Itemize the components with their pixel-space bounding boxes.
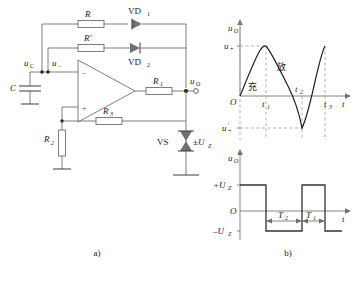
chart2-xlabel: t [342,214,345,224]
label-diode-VD2-sub: 2 [147,62,150,68]
chart2-ytick-label-plusUz: +U [213,180,226,190]
label-resistor-R: R [84,9,91,19]
label-resistor-R1-sub: 1 [160,81,163,87]
diode-VD2-triangle [130,43,140,53]
chart1-annotation-discharging: 放 [277,61,286,72]
chart1-ytick-label-uplus: u [224,41,229,51]
junction-inverting-2 [40,70,43,73]
chart1-ylabel: u [228,23,233,33]
chart2-interval-T1-label: T [306,210,312,220]
label-resistor-R2: R [43,134,50,144]
branch-R-VD1 [42,19,186,89]
chart1-xaxis-arrow [345,93,351,99]
circuit-and-waveform-figure: – + [0,0,358,285]
chart2-interval-T2-arrow-left [266,219,272,224]
chart2-ylabel: u [228,153,233,163]
diode-VD1-triangle [132,19,142,29]
chart1-ytick-label-uplus-sub: + [230,46,234,52]
chart2-interval-T1-label-sub: 1 [313,215,316,221]
chart2-interval-T2-arrow-right [296,219,302,224]
chart2-interval-T1-arrow-right [319,219,325,224]
chart1-ytick-label-uplus-prime: u [222,123,227,133]
operational-amplifier: – + [62,60,135,122]
junction-inverting [46,70,49,73]
chart2-xaxis-arrow [345,208,351,214]
chart1-annotation-charging: 充 [248,81,257,92]
label-node-uminus: u [52,58,57,68]
label-diode-VD2: VD [128,57,141,67]
zener-triangle-lower [180,141,192,151]
label-resistor-R3-sub: 3 [109,111,113,117]
chart1-xtick-t3-sub: 3 [328,104,332,110]
chart1-xtick-t2-sub: 2 [300,89,303,95]
chart2-waveform-path [240,185,342,231]
chart1-xtick-t1: t [262,99,265,109]
label-node-uO: u [190,76,195,86]
chart1-ylabel-sub: O [234,28,239,34]
label-zener-VS: VS [157,137,169,147]
label-capacitor-C: C [10,83,17,93]
chart1-origin-label: O [230,97,237,107]
chart1-xtick-t2: t [295,84,298,94]
chart2-ytick-label-plusUz-sub: Z [228,185,232,191]
chart1-xtick-t1-sub: 1 [267,104,270,110]
chart2-yaxis-arrow [237,149,243,155]
chart1-xlabel: t [342,99,345,109]
chart2-origin-label: O [230,206,237,216]
label-node-uC-sub: C [30,63,34,69]
label-node-uC: u [24,58,29,68]
chart2-ytick-label-minusUz: –U [212,226,225,236]
label-zener-value-sub: Z [208,143,212,149]
label-diode-VD1: VD [128,6,141,16]
label-resistor-R1: R [152,76,159,86]
output-terminal [194,89,199,94]
resistor-R2-body [59,130,66,156]
chart2-interval-T2-label-sub: 2 [285,215,288,221]
chart1-xtick-t3: t [324,99,327,109]
panel-b-caption: b) [284,248,292,258]
label-resistor-R3: R [102,106,109,116]
label-resistor-Rprime: R′ [83,33,92,43]
resistor-R1-body [146,88,172,95]
label-zener-value: ±U [193,137,205,147]
resistor-R3-body [96,118,122,125]
inverting-input-network [19,70,78,104]
label-resistor-R2-sub: 2 [51,140,54,146]
label-diode-VD1-sub: 1 [147,11,150,17]
chart2-ylabel-sub: O [234,158,239,164]
label-node-uO-sub: O [196,81,201,87]
panel-a-caption: a) [94,248,101,258]
opamp-noninverting-sign: + [82,104,87,113]
zener-triangle-upper [180,131,192,141]
chart-capacitor-waveform: u O t O u + u + ′ t 1 t 2 t 3 充 放 [222,19,351,140]
chart2-interval-T2-label: T [278,210,284,220]
resistor-R-body [78,21,104,28]
resistor-Rprime-body [78,45,104,52]
panel-a-circuit: – + [10,6,212,258]
chart-square-wave: u O t O +U Z –U Z T 2 T 1 b) [212,149,351,258]
label-node-uminus-sub: – [57,63,62,69]
chart1-ytick-label-uplus-prime-sub: + [228,128,232,134]
figure-root: – + [0,0,358,285]
branch-Rprime-VD2 [48,43,186,73]
chart2-ytick-label-minusUz-sub: Z [228,231,232,237]
